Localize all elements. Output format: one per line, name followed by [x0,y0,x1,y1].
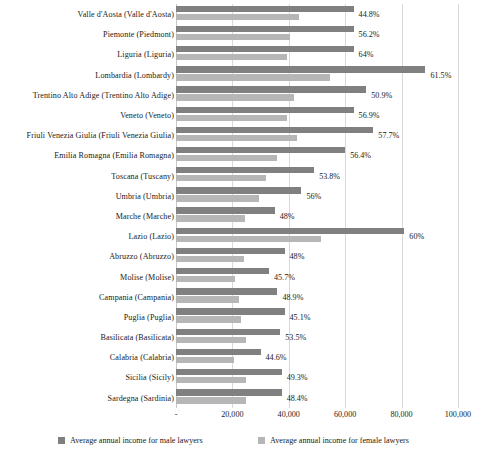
category-label: Liguria (Liguria) [117,50,174,59]
x-axis-tick-label: - [175,410,178,419]
bar-male[interactable] [176,288,277,294]
x-axis-tick-label: 40,000 [278,410,300,419]
bar-group: 57.7% [176,125,458,145]
category-label: Umbria (Umbria) [116,191,174,200]
bar-male[interactable] [176,268,269,274]
category-label: Sardegna (Sardinia) [108,393,174,402]
legend-swatch-female-icon [258,437,265,444]
data-label: 49.3% [287,373,308,382]
bar-female[interactable] [176,397,246,403]
data-label: 60% [409,232,424,241]
bar-group: 49.3% [176,367,458,387]
x-axis-tick-label: 100,000 [445,410,471,419]
chart-row: Veneto (Veneto)56.9% [0,105,478,125]
data-label: 48.4% [287,393,308,402]
data-label: 56% [306,191,321,200]
bar-female[interactable] [176,215,245,221]
bar-female[interactable] [176,135,297,141]
bar-female[interactable] [176,14,299,20]
chart-row: Lazio (Lazio)60% [0,226,478,246]
category-label: Lombardia (Lombardy) [95,70,174,79]
bar-male[interactable] [176,26,354,32]
bar-female[interactable] [176,296,239,302]
data-label: 48.9% [282,292,303,301]
data-label: 50.9% [371,90,392,99]
category-label: Valle d'Aosta (Valle d'Aosta) [78,10,174,19]
bar-female[interactable] [176,256,244,262]
bar-male[interactable] [176,207,275,213]
bar-male[interactable] [176,389,282,395]
bar-female[interactable] [176,115,287,121]
bar-female[interactable] [176,94,294,100]
chart-row: Sicilia (Sicily)49.3% [0,367,478,387]
bar-male[interactable] [176,107,354,113]
category-label: Veneto (Veneto) [120,111,174,120]
chart-row: Piemonte (Piedmont)56.2% [0,24,478,44]
bar-male[interactable] [176,248,285,254]
data-label: 56.9% [359,111,380,120]
legend-label-male: Average annual income for male lawyers [70,436,203,445]
legend-item-male[interactable]: Average annual income for male lawyers [58,436,203,445]
chart-row: Toscana (Tuscany)53.8% [0,166,478,186]
bar-female[interactable] [176,316,241,322]
x-axis: -20,00040,00060,00080,000100,000 [0,410,478,424]
bar-group: 48.4% [176,388,458,408]
bar-male[interactable] [176,6,354,12]
chart-row: Umbria (Umbria)56% [0,186,478,206]
bar-male[interactable] [176,308,285,314]
bar-male[interactable] [176,369,282,375]
bar-male[interactable] [176,66,425,72]
bar-female[interactable] [176,236,321,242]
bar-male[interactable] [176,349,261,355]
chart-row: Friuli Venezia Giulia (Friuli Venezia Gi… [0,125,478,145]
legend-item-female[interactable]: Average annual income for female lawyers [258,436,409,445]
data-label: 56.4% [350,151,371,160]
bar-female[interactable] [176,195,259,201]
legend-swatch-male-icon [58,437,65,444]
x-axis-tick-label: 60,000 [334,410,356,419]
bar-male[interactable] [176,86,366,92]
chart-row: Calabria (Calabria)44.6% [0,347,478,367]
category-label: Basilicata (Basilicata) [100,333,174,342]
bar-female[interactable] [176,175,266,181]
category-label: Calabria (Calabria) [110,353,174,362]
bar-group: 61.5% [176,65,458,85]
bar-group: 56% [176,186,458,206]
bar-female[interactable] [176,54,287,60]
data-label: 45.7% [274,272,295,281]
bar-group: 45.1% [176,307,458,327]
bar-group: 56.9% [176,105,458,125]
bar-male[interactable] [176,46,354,52]
data-label: 44.6% [266,353,287,362]
bar-male[interactable] [176,147,345,153]
x-axis-tick-label: 80,000 [390,410,412,419]
chart-row: Puglia (Puglia)45.1% [0,307,478,327]
chart-row: Emilia Romagna (Emilia Romagna)56.4% [0,145,478,165]
chart-rows: Valle d'Aosta (Valle d'Aosta)44.8%Piemon… [0,4,478,408]
bar-female[interactable] [176,377,246,383]
bar-male[interactable] [176,228,404,234]
bar-male[interactable] [176,127,373,133]
bar-male[interactable] [176,329,280,335]
bar-female[interactable] [176,155,277,161]
bar-male[interactable] [176,167,314,173]
bar-female[interactable] [176,74,330,80]
data-label: 53.5% [285,333,306,342]
data-label: 44.8% [359,10,380,19]
bar-group: 60% [176,226,458,246]
data-label: 61.5% [430,70,451,79]
bar-female[interactable] [176,357,234,363]
bar-group: 48% [176,206,458,226]
chart-row: Liguria (Liguria)64% [0,44,478,64]
bar-female[interactable] [176,34,290,40]
bar-group: 50.9% [176,85,458,105]
bar-female[interactable] [176,337,246,343]
category-label: Piemonte (Piedmont) [103,30,174,39]
bar-male[interactable] [176,187,301,193]
chart-row: Basilicata (Basilicata)53.5% [0,327,478,347]
bar-female[interactable] [176,276,235,282]
category-label: Lazio (Lazio) [128,232,174,241]
data-label: 53.8% [319,171,340,180]
bar-group: 53.8% [176,166,458,186]
chart-row: Sardegna (Sardinia)48.4% [0,388,478,408]
